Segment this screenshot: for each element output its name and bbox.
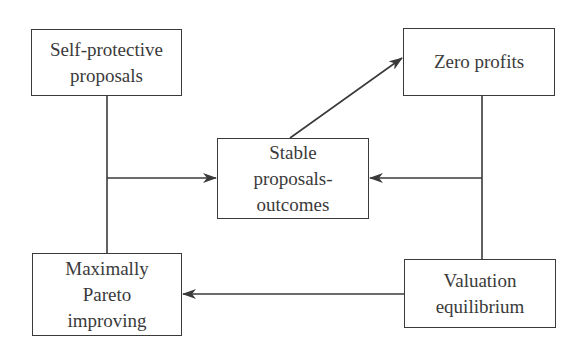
node-label-line: Pareto	[65, 282, 148, 308]
node-label-line: Stable	[253, 140, 332, 166]
node-label-line: Maximally	[65, 256, 148, 282]
node-self-protective-proposals: Self-protective proposals	[31, 29, 182, 96]
node-label-line: equilibrium	[436, 294, 525, 320]
node-label-line: proposals	[50, 63, 163, 89]
node-maximally-pareto-improving: Maximally Pareto improving	[32, 253, 182, 336]
node-label-line: Zero profits	[434, 49, 524, 75]
node-label-line: Self-protective	[50, 37, 163, 63]
node-label-line: Valuation	[436, 268, 525, 294]
node-stable-proposals-outcomes: Stable proposals- outcomes	[217, 138, 369, 219]
edge-stable-to-zero-profits	[290, 58, 402, 138]
node-valuation-equilibrium: Valuation equilibrium	[404, 259, 556, 328]
node-label-line: improving	[65, 308, 148, 334]
node-zero-profits: Zero profits	[403, 28, 555, 96]
node-label-line: outcomes	[253, 192, 332, 218]
node-label-line: proposals-	[253, 166, 332, 192]
